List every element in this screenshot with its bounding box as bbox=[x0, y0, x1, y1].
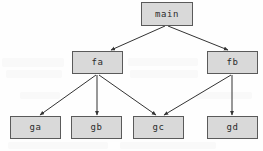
node-main-label: main bbox=[155, 10, 179, 19]
node-gc[interactable]: gc bbox=[133, 116, 184, 139]
node-gb[interactable]: gb bbox=[71, 116, 122, 139]
edge-main-to-fb bbox=[168, 26, 228, 50]
node-gc-label: gc bbox=[152, 123, 164, 132]
edge-fa-to-ga bbox=[40, 75, 96, 115]
node-fa[interactable]: fa bbox=[72, 51, 123, 74]
node-fb-label: fb bbox=[226, 58, 238, 67]
node-main[interactable]: main bbox=[141, 2, 193, 26]
edge-fb-to-gc bbox=[164, 75, 231, 115]
node-fa-label: fa bbox=[91, 58, 103, 67]
call-graph-diagram: main fa fb ga gb gc gd bbox=[0, 0, 263, 151]
edge-main-to-fa bbox=[111, 26, 165, 50]
node-ga[interactable]: ga bbox=[10, 116, 61, 139]
node-gb-label: gb bbox=[90, 123, 102, 132]
edge-fa-to-gc bbox=[99, 75, 156, 115]
node-fb[interactable]: fb bbox=[207, 51, 258, 74]
node-gd[interactable]: gd bbox=[207, 116, 258, 139]
node-ga-label: ga bbox=[29, 123, 41, 132]
edges-group bbox=[40, 26, 232, 115]
node-gd-label: gd bbox=[226, 123, 238, 132]
